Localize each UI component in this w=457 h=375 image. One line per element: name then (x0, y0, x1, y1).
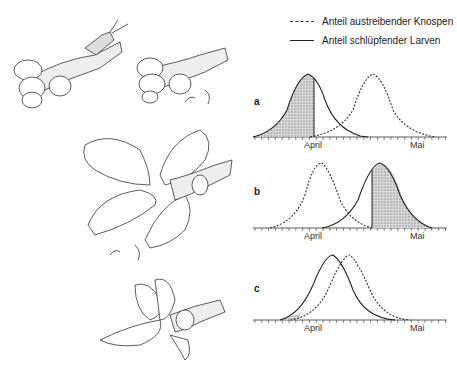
panel-a-label: a (254, 96, 260, 107)
panel-c-chart (253, 255, 447, 320)
panel-c-label: c (254, 283, 260, 294)
illustration-twig-1 (14, 20, 128, 108)
panel-a-chart (253, 74, 447, 137)
illustration-leaves (84, 130, 232, 260)
panel-b-label: b (254, 186, 260, 197)
panel-a-april-label: April (304, 140, 322, 150)
panel-b-chart (253, 163, 447, 228)
panel-c-mai-label: Mai (410, 323, 425, 333)
panel-b-mai-label: Mai (410, 231, 425, 241)
illustration-damaged-leaves (100, 279, 225, 360)
diagram-canvas (0, 0, 457, 375)
panel-a-mai-label: Mai (410, 140, 425, 150)
panel-b-april-label: April (304, 231, 322, 241)
illustration-twig-2 (137, 48, 228, 104)
panel-c-april-label: April (304, 323, 322, 333)
